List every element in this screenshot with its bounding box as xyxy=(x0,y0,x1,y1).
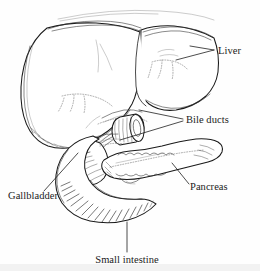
anatomy-diagram: Liver Bile ducts Pancreas Gallbladder Sm… xyxy=(0,0,260,271)
diaphragm-arc xyxy=(58,10,214,21)
anatomy-figure: Liver Bile ducts Pancreas Gallbladder Sm… xyxy=(0,0,260,271)
label-liver: Liver xyxy=(218,45,241,56)
label-bile-ducts: Bile ducts xyxy=(186,114,229,125)
label-small-intestine: Small intestine xyxy=(95,254,159,265)
label-gallbladder: Gallbladder xyxy=(8,190,59,201)
pancreas-body xyxy=(102,139,223,184)
liver-right-lobe xyxy=(136,26,219,111)
label-pancreas: Pancreas xyxy=(190,181,228,192)
